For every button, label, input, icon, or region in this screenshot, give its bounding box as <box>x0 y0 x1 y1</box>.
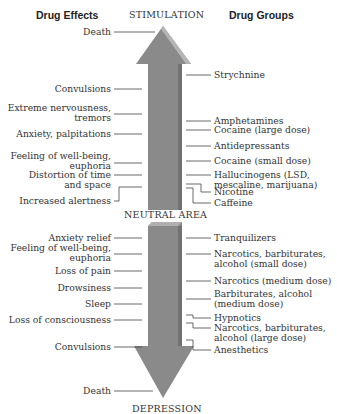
effect-extreme-nervousness: Extreme nervousness, tremors <box>8 103 111 122</box>
stimulation-arrow <box>136 26 191 210</box>
depression-caption: DEPRESSION <box>132 403 202 414</box>
effect-well-being-stim: Feeling of well-being, euphoria <box>11 151 111 170</box>
drug-cocaine-small: Cocaine (small dose) <box>214 156 311 166</box>
drug-narcotics-large-line2: alcohol (large dose) <box>214 333 326 343</box>
drug-narcotics-small-line2: alcohol (small dose) <box>214 259 326 269</box>
right-leaders-stimulation <box>186 75 211 203</box>
effect-distortion-time-space: Distortion of time and space <box>29 170 111 189</box>
effect-loss-of-consciousness: Loss of consciousness <box>9 315 111 325</box>
drug-narcotics-small: Narcotics, barbiturates, alcohol (small … <box>214 249 326 268</box>
neutral-area-caption: NEUTRAL AREA <box>124 209 207 220</box>
right-leaders-depression <box>186 238 211 350</box>
drug-barbiturates-medium: Barbiturates, alcohol (medium dose) <box>214 289 312 308</box>
drug-antidepressants: Antidepressants <box>214 141 289 151</box>
drug-tranquilizers: Tranquilizers <box>214 233 276 243</box>
effect-anxiety-palpitations: Anxiety, palpitations <box>16 129 111 139</box>
effect-well-being-dep: Feeling of well-being, euphoria <box>11 243 111 262</box>
drug-barbiturates-medium-line2: (medium dose) <box>214 299 312 309</box>
depression-arrow <box>134 222 194 398</box>
drug-groups-header: Drug Groups <box>229 9 294 21</box>
drug-strychnine: Strychnine <box>214 70 265 80</box>
effect-convulsions-stim: Convulsions <box>55 84 111 94</box>
effect-increased-alertness: Increased alertness <box>19 196 111 206</box>
effect-death-dep: Death <box>83 386 111 396</box>
drug-caffeine: Caffeine <box>214 198 253 208</box>
effect-distortion-line2: and space <box>29 180 111 190</box>
stimulation-caption: STIMULATION <box>129 9 204 20</box>
drug-anesthetics: Anesthetics <box>214 345 268 355</box>
effect-death-stim: Death <box>83 27 111 37</box>
effect-well-being-dep-line2: euphoria <box>11 253 111 263</box>
effect-extreme-nervousness-line2: tremors <box>8 113 111 123</box>
drug-effects-header: Drug Effects <box>36 9 98 21</box>
drug-narcotics-large: Narcotics, barbiturates, alcohol (large … <box>214 323 326 342</box>
drug-cocaine-large: Cocaine (large dose) <box>214 125 310 135</box>
effect-sleep: Sleep <box>85 299 111 309</box>
drug-narcotics-medium: Narcotics (medium dose) <box>214 276 331 286</box>
diagram-graphics <box>0 0 337 414</box>
effect-drowsiness: Drowsiness <box>57 283 111 293</box>
effect-loss-of-pain: Loss of pain <box>55 266 111 276</box>
effect-convulsions-dep: Convulsions <box>55 342 111 352</box>
drug-nicotine: Nicotine <box>214 187 254 197</box>
